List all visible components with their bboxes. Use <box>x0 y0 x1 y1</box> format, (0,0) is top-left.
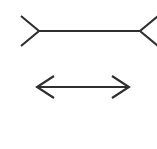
muller-lyer-svg <box>0 0 157 149</box>
top-figure-outward-fins <box>21 16 157 46</box>
top-left-fin-icon <box>21 16 39 46</box>
top-right-fin-icon <box>140 16 157 46</box>
bottom-figure-inward-arrowheads <box>37 76 129 98</box>
figure-canvas: Müller-Lyer illusion <box>0 0 157 149</box>
